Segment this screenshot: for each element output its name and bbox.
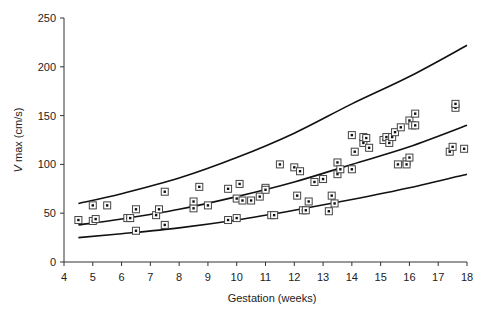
data-point-marker — [196, 183, 203, 190]
data-point-marker — [161, 221, 168, 228]
x-tick-label: 7 — [147, 271, 153, 283]
x-tick-label: 15 — [375, 271, 387, 283]
data-point-marker — [403, 161, 410, 168]
x-tick-label: 9 — [205, 271, 211, 283]
data-point-marker — [89, 202, 96, 209]
data-point-marker — [331, 200, 338, 207]
y-tick-label: 150 — [38, 110, 56, 122]
x-tick-label: 5 — [90, 271, 96, 283]
x-axis: 456789101112131415161718 — [61, 262, 473, 283]
x-tick-label: 11 — [260, 271, 271, 283]
data-point-marker — [256, 193, 263, 200]
data-point-marker — [161, 188, 168, 195]
x-tick-label: 8 — [176, 271, 182, 283]
data-point-marker — [75, 217, 82, 224]
data-point-marker — [351, 148, 358, 155]
data-point-marker — [132, 206, 139, 213]
data-point-marker — [297, 168, 304, 175]
data-point-marker — [412, 110, 419, 117]
data-point-marker — [452, 100, 459, 107]
x-tick-label: 4 — [61, 271, 67, 283]
data-point-marker — [363, 135, 370, 142]
data-point-marker — [225, 185, 232, 192]
x-tick-label: 6 — [119, 271, 125, 283]
y-axis-title-rest: max (cm/s) — [12, 108, 24, 165]
data-point-marker — [412, 122, 419, 129]
data-point-marker — [104, 202, 111, 209]
x-tick-label: 14 — [346, 271, 358, 283]
y-axis: 050100150200250 — [38, 12, 64, 268]
x-tick-label: 16 — [403, 271, 415, 283]
x-axis-title: Gestation (weeks) — [228, 292, 317, 304]
data-point-marker — [449, 143, 456, 150]
data-point-marker — [394, 161, 401, 168]
y-axis-title: V max (cm/s) — [12, 108, 24, 173]
data-point-marker — [294, 192, 301, 199]
data-point-marker — [325, 208, 332, 215]
x-tick-label: 13 — [317, 271, 329, 283]
y-tick-label: 200 — [38, 61, 56, 73]
data-point-marker — [225, 217, 232, 224]
data-point-marker — [127, 215, 134, 222]
data-point-marker — [348, 132, 355, 139]
data-point-marker — [248, 197, 255, 204]
data-point-marker — [320, 176, 327, 183]
data-point-marker — [334, 159, 341, 166]
y-tick-label: 250 — [38, 12, 56, 24]
data-point-marker — [190, 205, 197, 212]
data-point-marker — [302, 207, 309, 214]
data-point-marker — [397, 124, 404, 131]
y-tick-label: 50 — [44, 207, 56, 219]
x-tick-label: 12 — [288, 271, 300, 283]
data-point-marker — [92, 216, 99, 223]
data-point-marker — [233, 215, 240, 222]
data-point-marker — [204, 202, 211, 209]
data-point-marker — [305, 198, 312, 205]
data-point-marker — [239, 197, 246, 204]
data-point-marker — [337, 166, 344, 173]
data-point-marker — [236, 180, 243, 187]
y-tick-label: 0 — [50, 256, 56, 268]
data-point-marker — [271, 212, 278, 219]
x-tick-label: 17 — [432, 271, 444, 283]
data-point-marker — [311, 178, 318, 185]
data-point-marker — [348, 166, 355, 173]
data-point-marker — [461, 145, 468, 152]
data-point-marker — [406, 154, 413, 161]
plot-area — [75, 45, 468, 237]
data-point-marker — [276, 161, 283, 168]
data-point-marker — [328, 192, 335, 199]
x-tick-label: 18 — [461, 271, 473, 283]
data-point-marker — [190, 198, 197, 205]
data-point-marker — [155, 206, 162, 213]
data-point-marker — [262, 186, 269, 193]
scatter-points — [75, 100, 468, 234]
x-tick-label: 10 — [231, 271, 243, 283]
y-tick-label: 100 — [38, 158, 56, 170]
scatter-chart: 050100150200250 456789101112131415161718… — [0, 0, 484, 313]
data-point-marker — [132, 227, 139, 234]
data-point-marker — [366, 144, 373, 151]
